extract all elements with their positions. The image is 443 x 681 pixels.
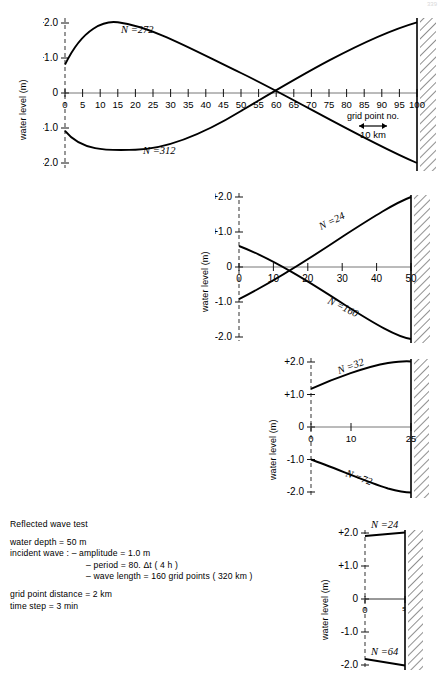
- svg-text:-2.0: -2.0: [287, 486, 305, 497]
- panel-50-curve-n24: [239, 197, 411, 299]
- panel-25-y-tick-labels: +2.0 +1.0 0 -1.0 -2.0: [284, 356, 304, 497]
- svg-text:90: 90: [377, 99, 388, 110]
- svg-text:0: 0: [236, 273, 242, 284]
- panel-5-wall-hatch: [408, 530, 423, 670]
- svg-text:0: 0: [52, 87, 58, 98]
- caption-period: – period = 80. Δt ( 4 h ): [10, 560, 253, 572]
- svg-text:-1.0: -1.0: [215, 296, 232, 307]
- panel-5-plot: 0 5 +2.0 +1.0 0 -1.0 -2.0 N =24 N: [333, 518, 443, 678]
- panel-100-y-ticks: [61, 23, 69, 163]
- svg-text:75: 75: [324, 99, 335, 110]
- svg-text:0: 0: [226, 261, 232, 272]
- panel-25-y-axis-label: water level (m): [268, 419, 278, 480]
- panel-100-label-n272: N =272: [120, 24, 154, 35]
- svg-text:0: 0: [362, 604, 367, 615]
- caption-water-depth: water depth = 50 m: [10, 537, 253, 549]
- panel-100-y-axis-label: water level (m): [18, 79, 28, 140]
- figure-reflected-wave-test: 339 water level (m): [0, 0, 443, 681]
- svg-text:0: 0: [298, 421, 304, 432]
- panel-5-label-n24: N =24: [370, 519, 399, 530]
- caption-time-step: time step = 3 min: [10, 601, 253, 613]
- panel-50-wall-hatch: [414, 195, 430, 343]
- svg-text:-2.0: -2.0: [43, 157, 58, 168]
- svg-text:+1.0: +1.0: [284, 389, 304, 400]
- panel-5-curve-n24: [365, 533, 405, 537]
- panel-5-y-tick-labels: +2.0 +1.0 0 -1.0 -2.0: [338, 527, 358, 670]
- svg-text:+1.0: +1.0: [43, 52, 58, 63]
- svg-text:+1.0: +1.0: [338, 560, 358, 571]
- caption-title: Reflected wave test: [10, 519, 253, 531]
- panel-100-scale-note: grid point no. 10 km: [347, 111, 399, 140]
- svg-text:-2.0: -2.0: [341, 659, 359, 670]
- svg-text:30: 30: [337, 273, 349, 284]
- svg-text:+2.0: +2.0: [215, 191, 232, 202]
- svg-text:30: 30: [165, 99, 176, 110]
- panel-25-label-n72: N =72: [343, 467, 374, 487]
- panel-50-plot: 0 10 20 30 40 50 +2.0 +1.0 0 -1.0 -2.0: [215, 185, 443, 365]
- svg-text:0: 0: [308, 433, 313, 444]
- panel-100-wall-hatch: [420, 18, 436, 171]
- caption-incident-wave: incident wave : – amplitude = 1.0 m: [10, 548, 253, 560]
- svg-text:85: 85: [359, 99, 370, 110]
- svg-text:-2.0: -2.0: [215, 331, 232, 342]
- panel-25-plot: 0 10 25 +2.0 +1.0 0 -1.0 -2.0 N =3: [283, 350, 443, 515]
- svg-text:15: 15: [113, 99, 124, 110]
- svg-text:-1.0: -1.0: [287, 454, 305, 465]
- panel-5-label-n64: N =64: [370, 646, 399, 657]
- page-number: 339: [427, 1, 437, 7]
- panel-50-x-tick-labels: 0 10 20 30 40 50: [236, 273, 417, 284]
- panel-25-x-tick-labels: 0 10 25: [308, 433, 416, 444]
- svg-text:20: 20: [130, 99, 141, 110]
- panel-5-x-tick-labels: 0 5: [362, 604, 406, 615]
- panel-5-curve-n64: [365, 659, 405, 666]
- svg-text:+2.0: +2.0: [338, 527, 358, 538]
- svg-text:+2.0: +2.0: [43, 17, 58, 28]
- panel-50-label-n160: N =160: [325, 294, 361, 319]
- svg-text:80: 80: [341, 99, 352, 110]
- panel-50-y-axis-label: water level (m): [200, 251, 210, 312]
- panel-100-label-n312: N =312: [142, 145, 176, 156]
- panel-50-curve-n160: [239, 246, 411, 339]
- panel-25-wall-hatch: [414, 359, 429, 498]
- svg-text:0: 0: [352, 593, 358, 604]
- svg-text:60: 60: [271, 99, 282, 110]
- svg-text:0: 0: [62, 99, 67, 110]
- svg-text:35: 35: [183, 99, 194, 110]
- caption-wavelength: – wave length = 160 grid points ( 320 km…: [10, 571, 253, 583]
- svg-text:-1.0: -1.0: [341, 626, 359, 637]
- svg-text:grid point no.: grid point no.: [347, 111, 399, 121]
- panel-100-y-tick-labels: +2.0 +1.0 0 -1.0 -2.0: [43, 17, 58, 168]
- svg-text:25: 25: [148, 99, 159, 110]
- panel-50-label-n24: N =24: [316, 210, 347, 233]
- svg-text:+1.0: +1.0: [215, 226, 232, 237]
- svg-text:45: 45: [218, 99, 229, 110]
- svg-text:+2.0: +2.0: [284, 356, 304, 367]
- caption-grid-point-distance: grid point distance = 2 km: [10, 589, 253, 601]
- caption-block: Reflected wave test water depth = 50 m i…: [10, 519, 253, 612]
- svg-text:40: 40: [371, 273, 383, 284]
- panel-50-y-tick-labels: +2.0 +1.0 0 -1.0 -2.0: [215, 191, 232, 342]
- panel-5-y-axis-label: water level (m): [320, 579, 330, 640]
- svg-text:-1.0: -1.0: [43, 122, 58, 133]
- svg-text:10: 10: [346, 433, 357, 444]
- panel-100-plot: 0 5 10 15 20 25 30 35 40 45 50 55 60 65 …: [43, 8, 443, 193]
- svg-text:5: 5: [80, 99, 85, 110]
- svg-text:10: 10: [95, 99, 106, 110]
- svg-text:10 km: 10 km: [360, 129, 386, 140]
- panel-100-x-ticks: [65, 89, 417, 97]
- svg-text:40: 40: [201, 99, 212, 110]
- svg-text:95: 95: [394, 99, 405, 110]
